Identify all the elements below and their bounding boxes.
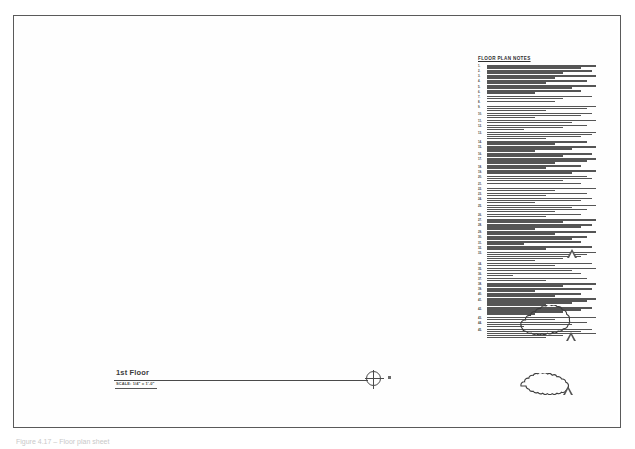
note-number: 5.	[478, 85, 487, 88]
note-text-line	[487, 238, 572, 240]
note-number: 45.	[478, 329, 487, 332]
note-number: 12.	[478, 125, 487, 128]
note-number: 11.	[478, 120, 487, 123]
note-item: 23.	[478, 193, 596, 197]
note-text-line	[487, 101, 555, 103]
note-text-line	[487, 195, 546, 197]
note-number: 13.	[478, 132, 487, 135]
note-number: 3.	[478, 75, 487, 78]
note-text-block	[487, 113, 596, 119]
note-text-block	[487, 283, 596, 287]
note-number: 27.	[478, 219, 487, 222]
note-number: 22.	[478, 188, 487, 191]
notes-list: 1.2.3.4.5.6.7.8.9.10.11.12.13.14.15.16.1…	[478, 65, 596, 338]
note-text-block	[487, 214, 596, 218]
note-text-block	[487, 205, 596, 213]
note-number: 37.	[478, 278, 487, 281]
note-text-line	[487, 67, 581, 69]
note-text-block	[487, 165, 596, 169]
note-item: 32.	[478, 246, 596, 250]
note-text-block	[487, 273, 596, 277]
note-text-line	[487, 155, 563, 157]
note-text-block	[487, 158, 596, 164]
note-text-line	[487, 280, 546, 282]
plan-scale-underline	[115, 388, 157, 389]
note-text-block	[487, 246, 596, 250]
note-item: 44.	[478, 322, 596, 328]
note-text-line	[487, 183, 581, 185]
note-item: 16.	[478, 153, 596, 157]
note-text-line	[487, 143, 555, 145]
note-item: 28.	[478, 224, 596, 230]
note-item: 12.	[478, 125, 596, 131]
note-text-line	[487, 228, 535, 230]
note-number: 18.	[478, 165, 487, 168]
note-text-block	[487, 101, 596, 103]
note-item: 8.	[478, 101, 596, 104]
note-number: 4.	[478, 80, 487, 83]
note-item: 1.	[478, 65, 596, 69]
note-item: 13.	[478, 132, 596, 140]
note-item: 6.	[478, 90, 596, 94]
note-item: 39.	[478, 288, 596, 292]
note-text-line	[487, 275, 513, 277]
revision-delta-2	[566, 332, 576, 341]
note-number: 14.	[478, 141, 487, 144]
sheet-border-frame: 1st Floor SCALE: 1/4" = 1'-0" FLOOR PLAN…	[13, 15, 621, 428]
note-text-block	[487, 198, 596, 204]
note-number: 43.	[478, 317, 487, 320]
note-text-block	[487, 317, 596, 321]
note-text-line	[487, 337, 546, 339]
note-number: 6.	[478, 90, 487, 93]
note-number: 41.	[478, 298, 487, 301]
note-text-block	[487, 75, 596, 79]
note-text-line	[487, 122, 572, 124]
note-text-line	[487, 285, 563, 287]
note-text-line	[487, 172, 572, 174]
note-text-line	[487, 82, 546, 84]
note-number: 31.	[478, 241, 487, 244]
note-item: 41.	[478, 298, 596, 306]
note-number: 15.	[478, 146, 487, 149]
note-item: 21.	[478, 183, 596, 186]
note-number: 35.	[478, 268, 487, 271]
note-text-block	[487, 120, 596, 124]
note-text-block	[487, 96, 596, 100]
note-text-block	[487, 80, 596, 84]
note-number: 24.	[478, 198, 487, 201]
note-item: 4.	[478, 80, 596, 84]
note-text-line	[487, 167, 546, 169]
note-item: 25.	[478, 205, 596, 213]
note-text-block	[487, 146, 596, 152]
notes-heading: FLOOR PLAN NOTES	[478, 56, 596, 62]
note-text-block	[487, 241, 596, 245]
note-text-line	[487, 248, 546, 250]
note-text-line	[487, 270, 572, 272]
note-item: 19.	[478, 170, 596, 174]
note-item: 2.	[478, 70, 596, 74]
note-text-block	[487, 252, 596, 262]
note-number: 40.	[478, 293, 487, 296]
note-text-block	[487, 188, 596, 192]
drawing-sheet-canvas: 1st Floor SCALE: 1/4" = 1'-0" FLOOR PLAN…	[0, 0, 635, 449]
note-text-block	[487, 176, 596, 182]
note-text-line	[487, 211, 555, 213]
note-number: 17.	[478, 158, 487, 161]
note-number: 16.	[478, 153, 487, 156]
floor-plan-notes-column: FLOOR PLAN NOTES 1.2.3.4.5.6.7.8.9.10.11…	[478, 56, 596, 340]
note-number: 20.	[478, 176, 487, 179]
note-item: 9.	[478, 106, 596, 112]
plan-scale-label: SCALE: 1/4" = 1'-0"	[116, 381, 155, 387]
note-text-block	[487, 224, 596, 230]
note-item: 11.	[478, 120, 596, 124]
note-text-block	[487, 170, 596, 174]
note-text-block	[487, 65, 596, 69]
note-item: 30.	[478, 236, 596, 240]
note-number: 44.	[478, 322, 487, 325]
note-text-block	[487, 268, 596, 272]
note-number: 34.	[478, 263, 487, 266]
note-text-block	[487, 288, 596, 292]
note-item: 3.	[478, 75, 596, 79]
note-text-line	[487, 77, 555, 79]
note-item: 26.	[478, 214, 596, 218]
